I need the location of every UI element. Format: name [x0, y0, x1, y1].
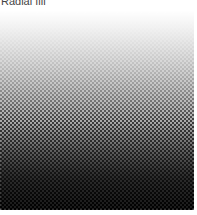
fill-label: Radial fill: [1, 0, 46, 7]
halftone-fill-swatch: [0, 10, 194, 210]
